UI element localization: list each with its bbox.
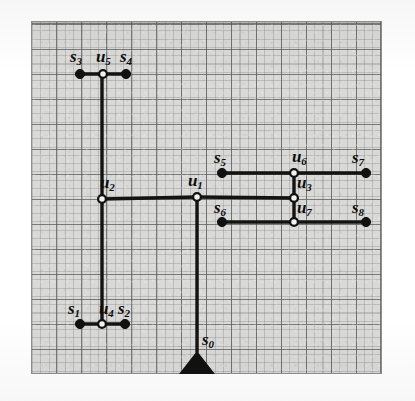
grid-plot-area: [31, 21, 382, 374]
minor-gridlines: [32, 22, 381, 373]
major-gridlines: [32, 22, 381, 373]
scan-texture: [32, 22, 381, 373]
routing-tree-figure: s0s1s2s3s4s5s6s7s8u1u2u3u4u5u6u7: [0, 0, 415, 401]
